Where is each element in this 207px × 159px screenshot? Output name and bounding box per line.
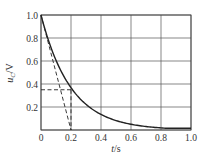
x-tick-label: 0 bbox=[39, 133, 44, 143]
series-u-c-t- bbox=[41, 15, 191, 128]
x-tick-label: 0.4 bbox=[95, 133, 107, 143]
y-tick-label: 1.0 bbox=[26, 11, 38, 21]
y-tick-label: 0.8 bbox=[26, 34, 38, 44]
y-axis-label: uC/V bbox=[4, 62, 17, 82]
y-tick-label: 0.2 bbox=[26, 103, 38, 113]
x-axis-label: t/s bbox=[111, 143, 121, 154]
x-tick-label: 0.8 bbox=[155, 133, 167, 143]
x-tick-label: 0.6 bbox=[125, 133, 137, 143]
x-tick-label: 1.0 bbox=[185, 133, 197, 143]
tick-labels: 00.20.40.60.81.00.20.40.60.81.0 bbox=[26, 11, 197, 144]
y-tick-label: 0.4 bbox=[26, 80, 38, 90]
y-tick-label: 0.6 bbox=[26, 57, 38, 67]
grid bbox=[41, 15, 191, 130]
plot-frame bbox=[41, 15, 191, 130]
x-tick-label: 0.2 bbox=[65, 133, 77, 143]
chart: 00.20.40.60.81.00.20.40.60.81.0 t/s uC/V bbox=[0, 0, 207, 159]
series bbox=[41, 15, 191, 130]
